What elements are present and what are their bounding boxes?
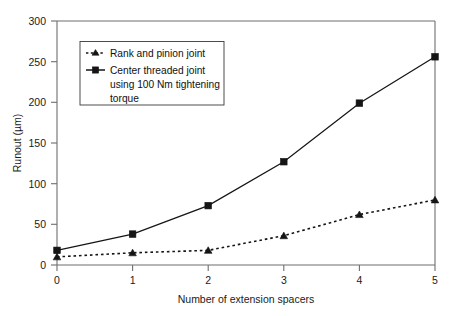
- x-axis-tick-labels: 0 1 2 3 4 5: [54, 274, 438, 286]
- runout-line-chart: 0 50 100 150 200 250 300 0 1 2 3 4 5 Num…: [0, 0, 466, 316]
- legend-label-center-threaded-line3: torque: [110, 93, 139, 104]
- y-tick-label: 100: [28, 178, 46, 190]
- y-tick-label: 0: [40, 259, 46, 271]
- y-axis-tick-labels: 0 50 100 150 200 250 300: [28, 15, 46, 271]
- x-tick-label: 3: [281, 274, 287, 286]
- data-point-triangle: [431, 196, 439, 203]
- legend-label-rank-pinion: Rank and pinion joint: [110, 48, 205, 59]
- y-tick-label: 200: [28, 96, 46, 108]
- chart-figure: 0 50 100 150 200 250 300 0 1 2 3 4 5 Num…: [0, 0, 466, 316]
- legend-label-center-threaded-line2: using 100 Nm tightening: [110, 79, 220, 90]
- data-point-triangle: [280, 232, 288, 239]
- chart-legend: Rank and pinion joint Center threaded jo…: [80, 42, 224, 106]
- series-line: [57, 200, 435, 257]
- data-point-triangle: [53, 253, 61, 260]
- x-tick-label: 5: [432, 274, 438, 286]
- y-axis-title: Runout (µm): [11, 114, 23, 173]
- x-axis-ticks: [57, 265, 435, 271]
- data-point-square: [205, 202, 212, 209]
- x-tick-label: 1: [130, 274, 136, 286]
- x-tick-label: 4: [356, 274, 362, 286]
- data-point-square: [54, 247, 61, 254]
- data-point-square: [281, 158, 288, 165]
- data-point-square: [129, 231, 136, 238]
- y-tick-label: 150: [28, 137, 46, 149]
- y-tick-label: 50: [34, 218, 46, 230]
- x-tick-label: 2: [205, 274, 211, 286]
- data-point-square: [432, 53, 439, 60]
- legend-marker-square-icon: [92, 67, 98, 73]
- y-axis-ticks: [51, 21, 57, 265]
- y-tick-label: 250: [28, 56, 46, 68]
- data-point-square: [356, 100, 363, 107]
- legend-label-center-threaded-line1: Center threaded joint: [110, 65, 205, 76]
- x-tick-label: 0: [54, 274, 60, 286]
- series-rank-pinion: [53, 196, 439, 260]
- y-tick-label: 300: [28, 15, 46, 27]
- x-axis-title: Number of extension spacers: [178, 293, 315, 305]
